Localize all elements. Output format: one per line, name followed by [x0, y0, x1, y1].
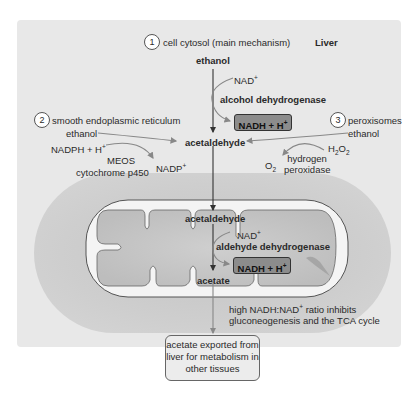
- section-3-marker: 3: [330, 112, 346, 128]
- nad-mito: NAD+: [237, 227, 261, 241]
- aldehyde-dehydrogenase-label: aldehyde dehydrogenase: [216, 241, 330, 252]
- nadh-ratio-note: high NADH:NAD+ ratio inhibits gluconeoge…: [229, 301, 380, 326]
- nadh-box-cytosol: NADH + H+: [234, 114, 292, 131]
- liver-title: Liver: [315, 37, 338, 48]
- acetate-export-box: acetate exported from liver for metaboli…: [165, 335, 260, 381]
- h2o2-label: H2O2: [328, 143, 350, 158]
- nadph-label: NADPH + H+: [51, 141, 106, 155]
- ethanol-peroxisome: ethanol: [348, 128, 379, 139]
- cytochrome-p450-label: cytochrome p450: [76, 167, 149, 178]
- ethanol-meos: ethanol: [66, 128, 97, 139]
- meos-label: MEOS: [107, 155, 135, 166]
- nadh-box-mito: NADH + H+: [233, 257, 291, 274]
- o2-label: O2: [265, 160, 276, 175]
- nadp-label: NADP+: [156, 160, 186, 174]
- acetate-label: acetate: [197, 275, 230, 286]
- alcohol-dehydrogenase-label: alcohol dehydrogenase: [220, 94, 326, 105]
- section-2-label: smooth endoplasmic reticulum: [52, 115, 180, 126]
- hydrogen-peroxidase-label: hydrogenperoxidase: [284, 153, 330, 175]
- ethanol-main: ethanol: [196, 55, 230, 66]
- acetaldehyde-cytosol: acetaldehyde: [185, 137, 245, 148]
- section-2-marker: 2: [34, 112, 50, 128]
- acetaldehyde-mito: acetaldehyde: [185, 213, 245, 224]
- section-1-marker: 1: [144, 34, 160, 50]
- nad-cytosol: NAD+: [234, 72, 258, 86]
- section-1-label: cell cytosol (main mechanism): [163, 37, 290, 48]
- section-3-label: peroxisomes: [348, 115, 402, 126]
